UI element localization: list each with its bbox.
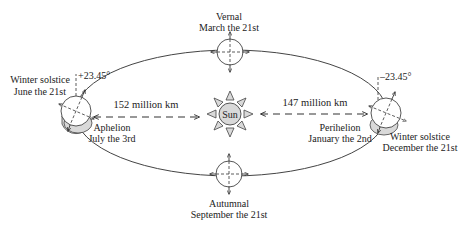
perihelion-date: January the 2nd bbox=[308, 133, 371, 144]
vernal-label: Vernal bbox=[216, 11, 242, 22]
perihelion-distance-label: 147 million km bbox=[283, 97, 348, 108]
left-solstice-date: June the 21st bbox=[14, 86, 66, 97]
aphelion-distance-label: 152 million km bbox=[114, 99, 179, 110]
sun-label: Sun bbox=[222, 109, 238, 120]
perihelion-label: Perihelion bbox=[319, 122, 360, 133]
sun: Sun bbox=[207, 91, 253, 137]
autumnal-label: Autumnal bbox=[209, 198, 249, 209]
aphelion-label: Aphelion bbox=[93, 122, 130, 133]
left-solstice-label: Winter solstice bbox=[10, 74, 70, 85]
right-solstice-globe bbox=[369, 75, 406, 135]
aphelion-date: July the 3rd bbox=[88, 133, 135, 144]
right-solstice-tilt: –23.45° bbox=[379, 71, 412, 82]
vernal-globe bbox=[211, 32, 249, 72]
right-solstice-label: Winter solstice bbox=[390, 131, 450, 142]
right-solstice-date: December the 21st bbox=[383, 142, 458, 153]
orbit-diagram: Sun 152 million km 147 million km Vernal… bbox=[0, 0, 462, 225]
autumnal-globe bbox=[210, 154, 248, 194]
left-solstice-tilt: +23.45° bbox=[78, 70, 110, 81]
autumnal-date: September the 21st bbox=[191, 209, 268, 220]
vernal-date: March the 21st bbox=[199, 22, 259, 33]
